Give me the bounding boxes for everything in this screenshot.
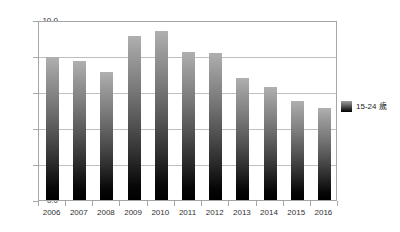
bar-slot [311,22,338,200]
legend-swatch-icon [341,101,352,112]
x-axis-tick [283,201,284,206]
bar-2009[interactable] [128,36,141,200]
bar-2008[interactable] [100,72,113,200]
bar-slot [202,22,229,200]
x-axis-tick [256,201,257,206]
bar-slot [66,22,93,200]
x-axis-tick [310,201,311,206]
x-axis-tick [228,201,229,206]
bar-2012[interactable] [209,53,222,200]
legend-label: 15-24 歲 [356,102,387,111]
bar-2014[interactable] [264,87,277,200]
x-axis-tick [174,201,175,206]
bars-layer [39,22,336,200]
x-axis-label-2016: 2016 [306,208,340,217]
bar-slot [284,22,311,200]
bar-chart: 10.0 8.0 6.0 4.0 2.0 0.0 [0,0,400,232]
x-axis-tick [119,201,120,206]
legend: 15-24 歲 [341,101,387,112]
bar-slot [256,22,283,200]
bar-2011[interactable] [182,52,195,200]
bar-2016[interactable] [318,108,331,200]
bar-2013[interactable] [236,78,249,200]
bar-2006[interactable] [46,57,59,200]
bar-slot [175,22,202,200]
plot-area [38,21,337,201]
x-axis-tick [92,201,93,206]
x-axis-tick [65,201,66,206]
x-axis-tick [337,201,338,206]
bar-slot [121,22,148,200]
bar-slot [39,22,66,200]
bar-slot [229,22,256,200]
bar-slot [148,22,175,200]
x-axis-tick [147,201,148,206]
x-axis-tick [201,201,202,206]
bar-slot [93,22,120,200]
x-axis-tick [38,201,39,206]
bar-2015[interactable] [291,101,304,200]
bar-2010[interactable] [155,31,168,200]
bar-2007[interactable] [73,61,86,200]
